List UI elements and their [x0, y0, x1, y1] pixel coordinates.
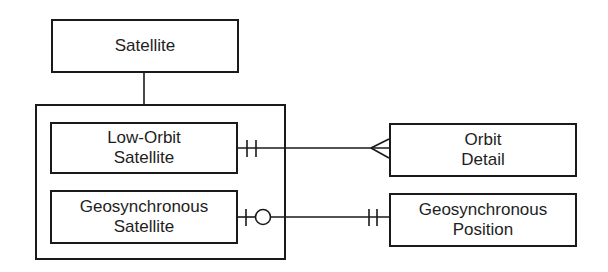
entity-label-line2: Position	[453, 220, 513, 240]
entity-geosynchronous-position[interactable]: Geosynchronous Position	[389, 193, 577, 247]
entity-satellite[interactable]: Satellite	[51, 19, 239, 73]
entity-orbit-detail[interactable]: Orbit Detail	[389, 123, 577, 177]
entity-label-line1: Geosynchronous	[419, 200, 548, 220]
entity-label-line1: Orbit	[465, 130, 502, 150]
entity-label-line2: Satellite	[114, 217, 174, 237]
entity-label-line2: Satellite	[114, 148, 174, 168]
entity-label-line2: Detail	[461, 150, 504, 170]
entity-geosynchronous-satellite[interactable]: Geosynchronous Satellite	[50, 190, 238, 244]
crowfoot-icon	[371, 148, 389, 158]
entity-label-line1: Geosynchronous	[80, 197, 209, 217]
crowfoot-icon	[371, 139, 389, 148]
entity-label-line1: Low-Orbit	[107, 128, 181, 148]
entity-label: Satellite	[115, 36, 175, 56]
entity-low-orbit-satellite[interactable]: Low-Orbit Satellite	[50, 122, 238, 174]
